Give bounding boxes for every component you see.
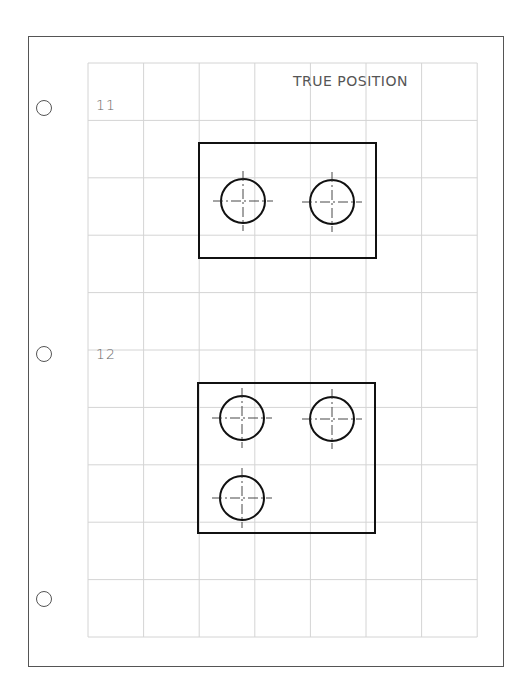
problem-number-11: 11: [96, 97, 116, 113]
hole-with-centerlines: [212, 388, 272, 448]
problem-number-12: 12: [96, 346, 116, 362]
hole-with-centerlines: [302, 389, 362, 449]
hole-with-centerlines: [212, 468, 272, 528]
hole-with-centerlines: [213, 171, 273, 231]
part-drawing-12: [198, 383, 375, 533]
graph-grid: [88, 63, 477, 637]
drawings: [198, 143, 376, 533]
hole-with-centerlines: [302, 172, 362, 232]
part-drawing-11: [199, 143, 376, 258]
plate-outline: [199, 143, 376, 258]
worksheet-title: TRUE POSITION: [293, 73, 408, 89]
drawing-canvas: [0, 0, 522, 696]
